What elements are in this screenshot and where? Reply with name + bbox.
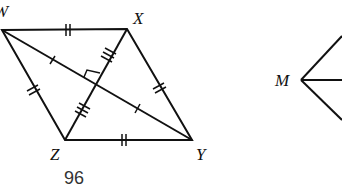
- rhombus-WXYZ: [2, 29, 192, 140]
- label-M: M: [274, 71, 290, 90]
- geometry-figure: W X Y Z M 96: [0, 0, 342, 186]
- label-Z: Z: [50, 145, 60, 164]
- label-X: X: [132, 9, 144, 28]
- page-number: 96: [64, 168, 84, 186]
- angle-figure-M: [301, 36, 342, 120]
- diagonal-WY: [2, 30, 192, 140]
- label-Y: Y: [196, 145, 207, 164]
- right-angle-mark: [84, 70, 100, 77]
- diagonal-XZ: [65, 29, 127, 140]
- label-W: W: [0, 2, 10, 21]
